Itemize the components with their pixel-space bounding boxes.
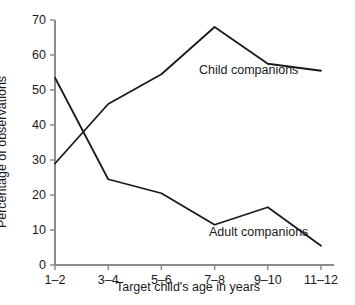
series-label-adult-companions: Adult companions xyxy=(209,226,308,239)
plot-area xyxy=(0,0,355,305)
y-axis-tick-label: 60 xyxy=(8,49,46,62)
series-line-child-companions xyxy=(55,27,321,164)
series-lines xyxy=(55,27,321,246)
y-axis-tick-label: 0 xyxy=(8,259,46,272)
y-axis-tick-label: 20 xyxy=(8,189,46,202)
y-axis-tick-label: 70 xyxy=(8,14,46,27)
y-axis-tick-label: 30 xyxy=(8,154,46,167)
y-axis-tick-label: 10 xyxy=(8,224,46,237)
y-axis-tick-label: 40 xyxy=(8,119,46,132)
line-chart: 010203040506070 1–23–45–67–89–1011–12 Pe… xyxy=(0,0,355,305)
series-label-child-companions: Child companions xyxy=(199,64,298,77)
x-axis-tick-label: 1–2 xyxy=(45,274,66,287)
y-axis-tick-label: 50 xyxy=(8,84,46,97)
series-line-adult-companions xyxy=(55,78,321,246)
y-axis-title: Percentage of observations xyxy=(0,76,8,228)
x-axis-title: Target child's age in years xyxy=(116,281,260,294)
x-axis-tick-label: 11–12 xyxy=(304,274,338,287)
